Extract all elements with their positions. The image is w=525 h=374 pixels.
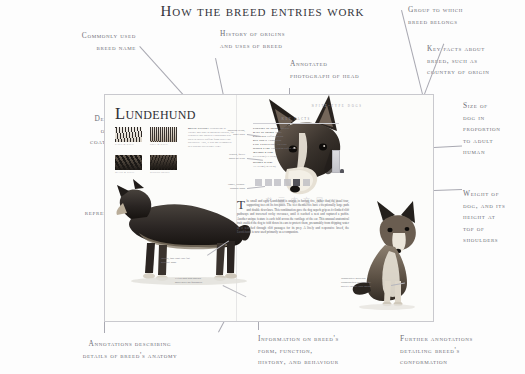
body-annotation-paws: Extra pad and double dewclaws on forepaw… [175, 277, 223, 285]
body-copy-text: he small and agile Lundehund is unique i… [237, 199, 349, 234]
coat-swatch: Grey & white [150, 127, 177, 142]
key-facts-panel: Key facts Country of origin Norway Date … [253, 117, 339, 150]
head-annotation-ears: Medium-sized, erect ears [201, 129, 245, 137]
group-icon [274, 179, 281, 186]
poster-page: How the breed entries work Commonly used… [0, 0, 525, 374]
callout-annotations-anatomy: Annotations describing details of breed'… [30, 338, 230, 361]
group-icon [303, 179, 310, 186]
leader-line-size [434, 146, 462, 148]
section-header: Spitz-type dogs [241, 103, 433, 108]
group-icon [265, 179, 272, 186]
human-silhouette-icon [332, 150, 340, 173]
head-annotation-eyes: Brown, fairly deep-set eyes [201, 153, 245, 161]
key-facts-heading: Key facts [253, 117, 339, 124]
dog-silhouette-icon [340, 169, 344, 173]
book-spread: Lundehund Sable & white Grey & white Bla… [104, 94, 434, 322]
group-icon [255, 179, 262, 186]
coat-swatch: Black & white [115, 155, 142, 170]
leader-line-weight [434, 189, 462, 191]
callout-commonly-used-breed-name: Commonly used breed name [18, 30, 136, 53]
group-icon [284, 179, 291, 186]
body-annotation-hindquarters: Moderately muscled hindquarters suitable… [341, 277, 391, 289]
sitting-dog-photograph [349, 199, 423, 311]
callout-history-of-origins: History of origins and uses of breed [220, 28, 340, 51]
coat-swatch: Sable & white [115, 127, 142, 142]
callout-information-on-breed: Information on breed's form, function, h… [258, 333, 388, 368]
group-icon-active [293, 179, 300, 186]
callout-annotated-photograph: Annotated photograph of head [290, 58, 410, 81]
callout-weight-of-dog: Weight of dog, and its height at top of … [463, 188, 525, 246]
body-annotation-coat: Dense, top-coat lies flat against body [161, 257, 207, 265]
size-comparison-graphic [318, 151, 344, 173]
breed-name-heading: Lundehund [115, 104, 196, 124]
callout-size-of-dog: Size of dog in proportion to adult human [463, 100, 525, 158]
breed-group-icon-strip [255, 179, 330, 186]
coat-swatch-group: Sable & white Grey & white Black & white… [115, 127, 181, 183]
callout-further-annotations: Further annotations detailing breed's co… [400, 333, 525, 368]
measurement-row: Weight range 5.9-6.8 kg (13-15 lb) [253, 151, 313, 159]
measurement-row: Height range 31-39 cm (12-15 in) [253, 161, 313, 169]
body-copy: The small and agile Lundehund is unique … [237, 199, 349, 235]
callout-group-to-which: Group to which breed belongs [408, 4, 525, 27]
head-annotation-head: Small, wedge- shaped head [201, 183, 245, 191]
key-facts-row: Other name Norwegian Puffin Dog [253, 147, 339, 151]
coat-swatch: Reddish brown [150, 155, 177, 170]
